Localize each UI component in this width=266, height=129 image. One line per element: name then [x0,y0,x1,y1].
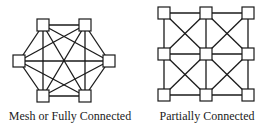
partial-topology [158,7,254,101]
mesh-edges [19,25,109,96]
node-r2c0 [158,89,170,101]
node-top-left [37,19,49,31]
node-r1c0 [158,48,170,60]
node-r2c1 [200,89,212,101]
node-bottom-right [79,90,91,102]
partial-caption: Partially Connected [160,109,255,124]
node-top-right [79,19,91,31]
node-bottom-left [37,90,49,102]
node-r1c2 [242,48,254,60]
mesh-topology [13,19,115,102]
node-r0c1 [200,7,212,19]
node-r0c0 [158,7,170,19]
node-left [13,55,25,67]
node-right [103,55,115,67]
node-r0c2 [242,7,254,19]
mesh-caption: Mesh or Fully Connected [9,109,131,124]
node-r1c1 [200,48,212,60]
node-r2c2 [242,89,254,101]
